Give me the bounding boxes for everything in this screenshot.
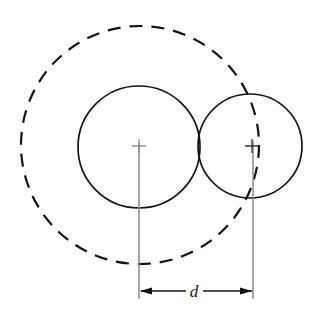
technical-drawing-figure: d	[0, 0, 333, 317]
figure-background	[0, 0, 333, 317]
dimension-label: d	[190, 282, 199, 301]
figure-canvas: d	[0, 0, 333, 317]
